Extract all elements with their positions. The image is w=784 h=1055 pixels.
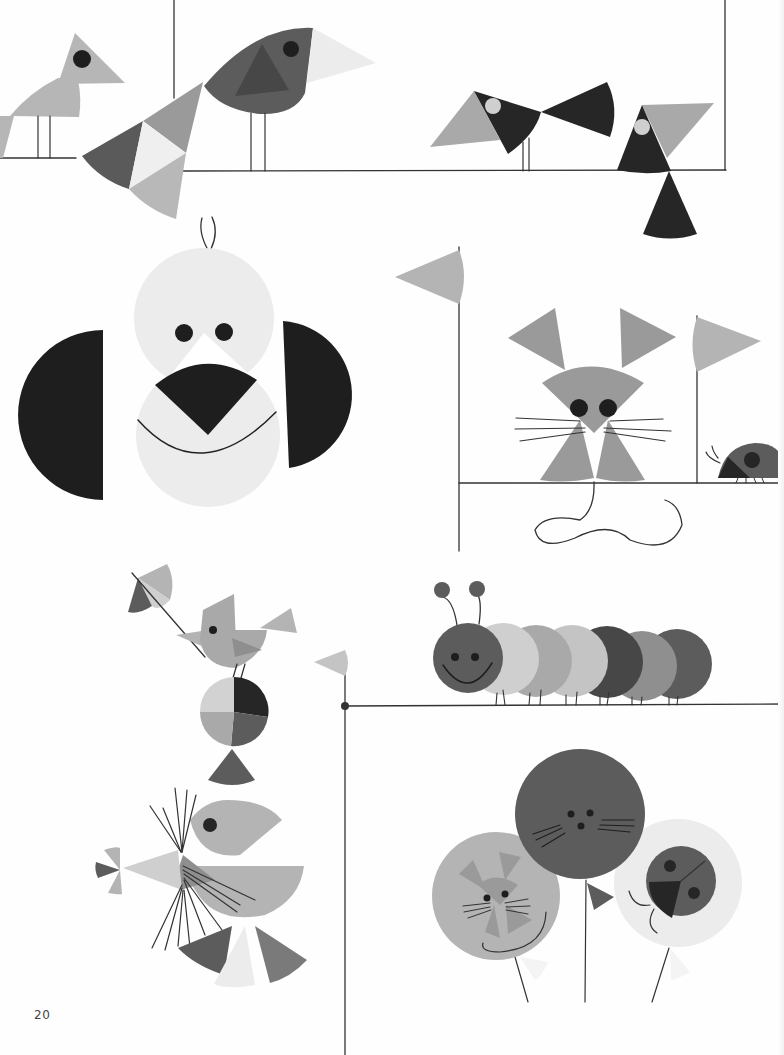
birds-on-perch	[0, 0, 726, 239]
ladybug	[706, 443, 784, 483]
puppy-face	[18, 217, 352, 507]
page-edge-shadow	[778, 0, 784, 1055]
black-bird-center	[430, 82, 614, 171]
page-number: 20	[34, 1008, 50, 1022]
grey-bird-left	[0, 33, 125, 158]
seal-balancing-ball	[95, 564, 307, 987]
dark-bird	[204, 28, 376, 171]
patchwork-bird	[82, 82, 203, 219]
mouse-with-flags	[395, 247, 784, 551]
black-bird-right	[617, 103, 714, 239]
illustration-canvas	[0, 0, 784, 1055]
animal-balloons	[432, 749, 742, 1002]
illustration-page: 20	[0, 0, 784, 1055]
